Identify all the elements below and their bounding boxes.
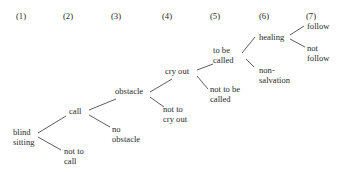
node-obstacle: obstacle: [115, 86, 143, 96]
node-cry-out: cry out: [165, 66, 189, 76]
tree-edges: [0, 0, 339, 172]
node-not-follow: not follow: [307, 43, 329, 63]
node-call: call: [69, 106, 81, 116]
node-blind-sitting: blind sitting: [13, 127, 35, 147]
node-healing: healing: [259, 32, 284, 42]
node-not-to-call: not to call: [64, 146, 84, 166]
node-follow: follow: [307, 21, 329, 31]
node-no-obstacle: no obstacle: [112, 124, 140, 144]
node-not-to-cry-out: not to cry out: [163, 104, 187, 124]
node-to-be-called: to be called: [213, 45, 234, 65]
node-non-salvation: non- salvation: [259, 65, 290, 85]
node-not-to-be-called: not to be called: [210, 84, 240, 104]
